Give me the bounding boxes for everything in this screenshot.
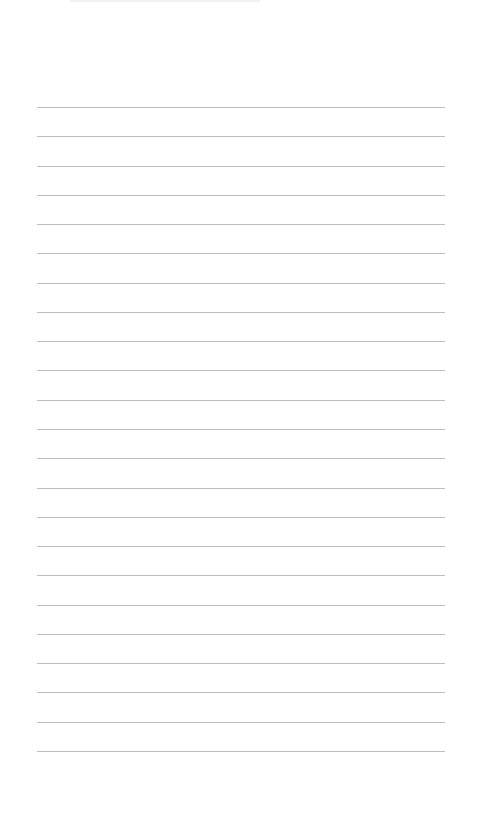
ruled-line [37,751,445,752]
ruled-line [37,488,445,489]
ruled-line [37,634,445,635]
ruled-line [37,692,445,693]
ruled-line [37,136,445,137]
lined-paper-sheet [0,0,494,839]
ruled-line [37,458,445,459]
ruled-line [37,546,445,547]
ruled-line [37,370,445,371]
ruled-line [37,283,445,284]
ruled-line [37,517,445,518]
ruled-line [37,605,445,606]
top-edge-artifact [70,0,260,2]
ruled-line [37,195,445,196]
ruled-line [37,722,445,723]
ruled-line [37,663,445,664]
ruled-line [37,224,445,225]
ruled-line [37,312,445,313]
ruled-line [37,166,445,167]
ruled-line [37,253,445,254]
ruled-line [37,341,445,342]
ruled-line [37,575,445,576]
ruled-line [37,429,445,430]
ruled-line [37,107,445,108]
ruled-line [37,400,445,401]
